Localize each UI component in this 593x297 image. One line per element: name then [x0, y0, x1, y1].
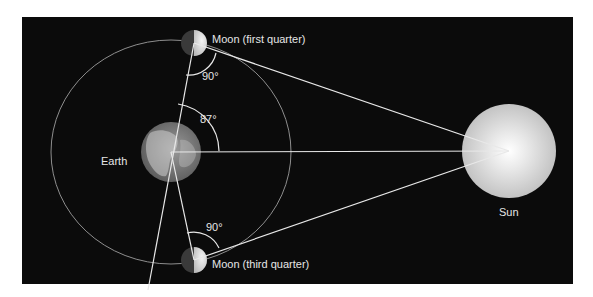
moon-third-quarter-label: Moon (third quarter) [212, 258, 309, 270]
sun-label: Sun [499, 206, 519, 218]
angle-label-top: 90° [202, 70, 219, 82]
earth-moon-sun-diagram: Moon (first quarter) 90° 87° Earth Sun 9… [0, 0, 593, 297]
angle-label-center: 87° [200, 113, 217, 125]
angle-label-bottom: 90° [206, 221, 223, 233]
earth-label: Earth [101, 155, 127, 167]
moon-first-quarter-label: Moon (first quarter) [212, 33, 306, 45]
